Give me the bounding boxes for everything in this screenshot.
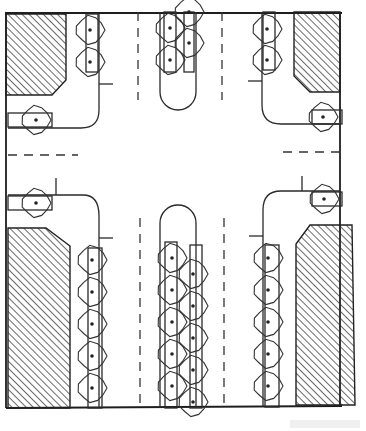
tree-trunk-icon	[170, 256, 174, 260]
side-trees	[8, 102, 342, 217]
hatched-block-top-right	[294, 12, 340, 92]
tree-trunk-icon	[266, 320, 270, 324]
tree-trunk-icon	[90, 354, 94, 358]
tree-trunk-icon	[321, 115, 325, 119]
tree-trunk-icon	[187, 10, 191, 14]
tree-trunk-icon	[170, 384, 174, 388]
hatched-block-bottom-right	[296, 225, 355, 405]
tree-west-north	[8, 105, 52, 134]
hatched-block-bottom-left	[8, 228, 70, 408]
tree-east-north	[309, 102, 342, 131]
tree-pit	[8, 113, 52, 127]
intersection-site-plan	[0, 0, 366, 431]
tree-trunk-icon	[170, 352, 174, 356]
tree-trunk-icon	[191, 272, 195, 276]
trees	[76, 0, 283, 417]
tree-trunk-icon	[265, 27, 269, 31]
hatched-block-top-left	[6, 14, 66, 95]
tree-row-top-left	[76, 14, 105, 77]
tree-trunk-icon	[168, 58, 172, 62]
tree-row-bottom-right	[254, 243, 283, 407]
tree-pit	[265, 245, 279, 407]
tree-east-south	[310, 184, 342, 213]
tree-trunk-icon	[88, 60, 92, 64]
tree-pit	[312, 192, 342, 206]
tree-trunk-icon	[170, 288, 174, 292]
tree-pit	[8, 196, 52, 210]
scan-artifact	[290, 420, 360, 428]
tree-trunk-icon	[90, 322, 94, 326]
tree-trunk-icon	[191, 336, 195, 340]
tree-trunk-icon	[322, 197, 326, 201]
tree-trunk-icon	[266, 288, 270, 292]
median-top	[160, 12, 196, 110]
tree-trunk-icon	[187, 41, 191, 45]
tree-trunk-icon	[266, 256, 270, 260]
tree-trunk-icon	[88, 28, 92, 32]
hatched-building-blocks	[6, 12, 355, 408]
tree-trunk-icon	[170, 320, 174, 324]
tree-row-bottom-left	[78, 245, 107, 408]
tree-pit	[88, 248, 102, 408]
tree-west-south	[8, 188, 52, 217]
tree-trunk-icon	[90, 258, 94, 262]
tree-trunk-icon	[266, 384, 270, 388]
tree-trunk-icon	[191, 304, 195, 308]
tree-trunk-icon	[90, 290, 94, 294]
tree-pit	[165, 242, 177, 408]
tree-row-top-right	[253, 12, 282, 75]
tree-trunk-icon	[168, 26, 172, 30]
tree-trunk-icon	[191, 400, 195, 404]
tree-trunk-icon	[266, 352, 270, 356]
tree-trunk-icon	[34, 201, 38, 205]
site-plan-drawing	[0, 0, 366, 431]
tree-trunk-icon	[265, 58, 269, 62]
tree-trunk-icon	[191, 368, 195, 372]
tree-trunk-icon	[90, 386, 94, 390]
tree-trunk-icon	[34, 118, 38, 122]
